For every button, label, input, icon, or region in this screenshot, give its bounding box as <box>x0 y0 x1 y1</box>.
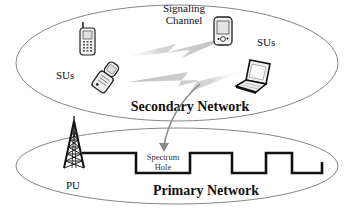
primary-network-label: Primary Network <box>153 183 259 198</box>
secondary-network-label: Secondary Network <box>131 99 250 114</box>
spectrum-hole-label-line1: Spectrum <box>147 152 180 162</box>
signaling-channel-label-line1: Signaling <box>163 2 206 14</box>
pda-icon <box>214 17 232 45</box>
arrow-head-icon <box>159 143 169 152</box>
su-label-right: SUs <box>257 36 275 48</box>
cell-phone-icon <box>80 22 95 55</box>
laptop-icon <box>236 60 270 94</box>
su-label-left: SUs <box>56 69 74 81</box>
secondary-network: Signaling Channel SUs SUs Secondary Netw… <box>16 2 338 121</box>
primary-network: PU Spectrum Hole Primary Network <box>16 116 338 204</box>
signaling-channel-label-line2: Channel <box>166 14 203 26</box>
link-lightning-icon <box>128 70 246 92</box>
flip-phone-icon <box>91 59 122 94</box>
spectrum-hole-label-line2: Hole <box>155 162 172 172</box>
spectrum-access-arrow <box>159 84 200 152</box>
cognitive-radio-diagram: Signaling Channel SUs SUs Secondary Netw… <box>0 0 354 212</box>
pu-label: PU <box>66 179 80 191</box>
pu-tower-icon <box>64 116 84 168</box>
primary-signal-waveform <box>82 153 322 173</box>
